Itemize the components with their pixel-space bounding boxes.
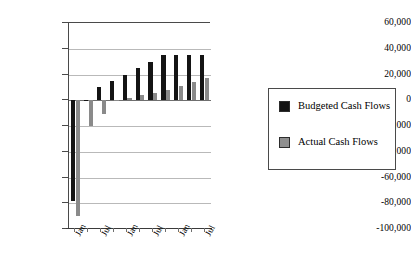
- gridline: [69, 178, 211, 179]
- legend-label-actual: Actual Cash Flows: [298, 135, 394, 149]
- bar-budgeted: [161, 55, 165, 100]
- bar-actual: [166, 90, 170, 100]
- gridline: [69, 152, 211, 153]
- x-axis-tick-mark: [165, 228, 166, 232]
- legend-swatch-actual-icon: [279, 137, 290, 148]
- cash-flow-bar-chart: 60,00040,00020,0000-20,000-40,000-60,000…: [0, 0, 411, 279]
- x-axis-tick-mark: [191, 228, 192, 232]
- bar-budgeted: [110, 81, 114, 100]
- bar-actual: [179, 86, 183, 100]
- x-axis-tick-mark: [87, 228, 88, 232]
- bar-actual: [89, 100, 93, 126]
- bar-budgeted: [148, 62, 152, 101]
- gridline: [69, 49, 211, 50]
- bar-budgeted: [97, 87, 101, 100]
- y-axis-tick-label: 20,000: [353, 69, 411, 79]
- bar-actual: [153, 93, 157, 101]
- chart-legend: Budgeted Cash Flows Actual Cash Flows: [268, 88, 396, 170]
- bar-actual: [127, 98, 131, 100]
- y-axis-tick-label: 60,000: [353, 17, 411, 27]
- bar-budgeted: [136, 68, 140, 100]
- legend-item-actual: Actual Cash Flows: [279, 135, 394, 149]
- legend-label-budgeted: Budgeted Cash Flows: [298, 99, 394, 113]
- bar-budgeted: [84, 100, 88, 101]
- plot-area: [68, 22, 210, 228]
- bar-actual: [192, 82, 196, 100]
- y-axis-tick-label: 40,000: [353, 43, 411, 53]
- bar-budgeted: [71, 100, 75, 200]
- legend-item-budgeted: Budgeted Cash Flows: [279, 99, 394, 113]
- bar-actual: [76, 100, 80, 216]
- y-axis-tick-label: -60,000: [353, 172, 411, 182]
- x-axis-tick-mark: [113, 228, 114, 232]
- bar-budgeted: [123, 75, 127, 101]
- legend-swatch-budgeted-icon: [279, 101, 290, 112]
- gridline: [69, 126, 211, 127]
- bar-budgeted: [187, 55, 191, 100]
- y-axis-tick-label: -80,000: [353, 197, 411, 207]
- bar-budgeted: [174, 55, 178, 100]
- bar-actual: [140, 95, 144, 100]
- x-axis-tick-mark: [139, 228, 140, 232]
- y-axis-tick-label: -100,000: [353, 223, 411, 233]
- bar-actual: [205, 78, 209, 100]
- bar-actual: [114, 100, 118, 101]
- bar-budgeted: [200, 55, 204, 100]
- gridline: [69, 203, 211, 204]
- bar-actual: [102, 100, 106, 114]
